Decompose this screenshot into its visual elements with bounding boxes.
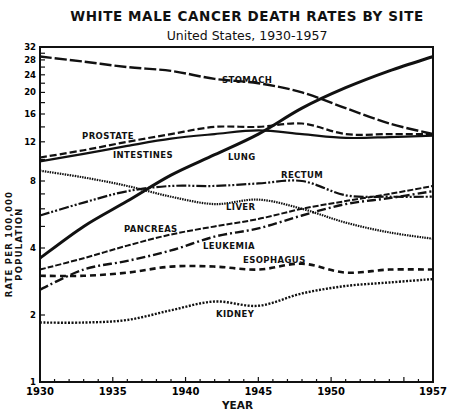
y-tick-label: 8	[30, 176, 36, 186]
line-chart: 1248121620242832193019351940194519501957…	[0, 0, 454, 416]
x-tick-label: 1957	[419, 386, 447, 397]
y-tick-label: 2	[30, 310, 36, 320]
plot-frame	[40, 47, 433, 382]
series-label-liver: LIVER	[226, 202, 256, 212]
series-label-esophagus: ESOPHAGUS	[243, 255, 306, 265]
x-tick-label: 1950	[317, 386, 345, 397]
series-label-intestines: INTESTINES	[113, 150, 173, 160]
y-tick-label: 4	[30, 243, 36, 253]
series-label-stomach: STOMACH	[222, 75, 272, 85]
x-tick-label: 1940	[172, 386, 200, 397]
x-tick-label: 1935	[99, 386, 127, 397]
series-label-kidney: KIDNEY	[216, 309, 255, 319]
series-label-prostate: PROSTATE	[82, 131, 134, 141]
x-tick-label: 1945	[244, 386, 272, 397]
y-tick-label: 16	[24, 109, 36, 119]
y-tick-label: 20	[24, 87, 36, 97]
series-label-rectum: RECTUM	[281, 170, 323, 180]
y-tick-label: 28	[24, 55, 36, 65]
series-label-leukemia: LEUKEMIA	[203, 241, 255, 251]
y-tick-label: 24	[24, 70, 36, 80]
series-line-stomach	[40, 57, 433, 135]
y-tick-label: 12	[24, 137, 36, 147]
x-tick-label: 1930	[26, 386, 54, 397]
y-tick-label: 32	[24, 42, 36, 52]
series-label-lung: LUNG	[228, 152, 256, 162]
series-label-pancreas: PANCREAS	[124, 224, 178, 234]
